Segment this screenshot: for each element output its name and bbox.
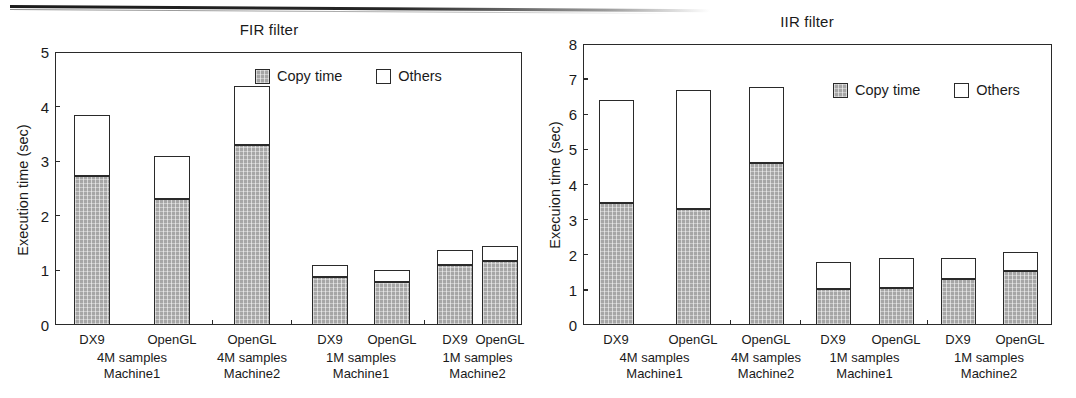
x-group-label-line2-iir-2: Machine1 [829,366,899,382]
x-group-label-iir-0: 4M samplesMachine1 [619,350,689,382]
bar-segment-others-iir-3 [816,262,851,289]
y-tick-mark-iir-3 [583,219,588,220]
y-tick-mark-fir-2 [55,215,60,216]
bar-fir-4 [374,270,410,325]
bar-iir-1 [676,90,711,325]
bar-segment-copy-time-iir-2 [749,163,784,325]
legend-swatch-others-icon [376,69,391,84]
legend-label-copy-time: Copy time [855,82,920,98]
y-tick-label-iir-2: 2 [557,246,577,263]
x-group-label-line1-iir-1: 4M samples [731,350,801,366]
x-category-label-iir-4: OpenGL [871,332,920,347]
x-group-label-line2-iir-0: Machine1 [619,366,689,382]
bar-segment-others-iir-1 [676,90,711,209]
legend-item-copy-time-iir: Copy time [833,82,920,98]
x-group-label-line1-iir-3: 1M samples [954,350,1024,366]
x-category-label-iir-1: OpenGL [668,332,717,347]
chart-title-fir: FIR filter [0,21,538,38]
bar-segment-copy-time-iir-3 [816,289,851,325]
legend-swatch-copy-time-icon [255,69,270,84]
legend-item-others-fir: Others [376,68,442,84]
y-tick-mark-fir-3 [55,161,60,162]
y-tick-mark-fir-1 [55,270,60,271]
y-axis-label-fir: Execution time (sec) [14,124,30,255]
x-tick-mark-iir-2 [800,320,801,325]
bar-segment-copy-time-fir-2 [234,145,270,325]
y-tick-mark-iir-7 [583,78,588,79]
bar-segment-copy-time-iir-5 [941,279,976,325]
x-tick-mark-fir-2 [291,320,292,325]
x-group-label-line1-fir-3: 1M samples [442,350,512,366]
legend-fir: Copy timeOthers [255,68,442,84]
y-tick-mark-iir-2 [583,254,588,255]
y-tick-label-iir-8: 8 [557,36,577,53]
bar-segment-others-fir-1 [154,156,190,200]
x-group-label-fir-1: 4M samplesMachine2 [217,350,287,382]
y-tick-label-fir-2: 2 [29,207,49,224]
bar-segment-copy-time-iir-0 [599,203,634,325]
y-tick-mark-iir-1 [583,289,588,290]
y-tick-label-iir-4: 4 [557,176,577,193]
y-tick-label-fir-3: 3 [29,153,49,170]
bar-iir-4 [879,258,914,325]
bar-segment-others-fir-4 [374,270,410,282]
y-tick-label-fir-0: 0 [29,317,49,334]
bar-fir-2 [234,86,270,325]
bar-segment-others-iir-4 [879,258,914,288]
bar-iir-2 [749,87,784,325]
bar-segment-others-fir-2 [234,86,270,144]
bar-segment-others-fir-5 [437,250,473,265]
x-group-label-line2-fir-0: Machine1 [97,366,167,382]
x-group-label-line1-iir-2: 1M samples [829,350,899,366]
y-tick-mark-iir-5 [583,149,588,150]
x-category-label-fir-6: OpenGL [475,332,524,347]
bar-segment-others-iir-5 [941,258,976,278]
legend-iir: Copy timeOthers [833,82,1020,98]
x-group-label-iir-1: 4M samplesMachine2 [731,350,801,382]
legend-item-others-iir: Others [954,82,1020,98]
bar-segment-copy-time-fir-6 [482,261,518,325]
x-category-label-fir-1: OpenGL [147,332,196,347]
y-tick-mark-fir-4 [55,106,60,107]
bar-fir-1 [154,156,190,325]
x-tick-mark-iir-1 [730,320,731,325]
x-group-label-fir-3: 1M samplesMachine2 [442,350,512,382]
x-group-label-iir-3: 1M samplesMachine2 [954,350,1024,382]
x-tick-mark-iir-3 [927,320,928,325]
bar-segment-others-fir-0 [74,115,110,177]
x-category-label-fir-2: OpenGL [227,332,276,347]
x-group-label-line2-fir-2: Machine1 [326,366,396,382]
y-tick-label-iir-7: 7 [557,71,577,88]
x-category-label-iir-5: DX9 [945,332,970,347]
bar-segment-others-iir-2 [749,87,784,164]
bar-segment-copy-time-fir-3 [312,277,348,325]
x-group-label-line2-iir-1: Machine2 [731,366,801,382]
y-tick-label-iir-1: 1 [557,281,577,298]
y-tick-label-iir-5: 5 [557,141,577,158]
legend-swatch-others-icon [954,83,969,98]
x-category-label-fir-3: DX9 [317,332,342,347]
x-group-label-line1-fir-0: 4M samples [97,350,167,366]
bar-segment-copy-time-fir-1 [154,199,190,325]
x-group-label-line2-fir-1: Machine2 [217,366,287,382]
y-tick-label-iir-3: 3 [557,211,577,228]
x-category-label-iir-3: DX9 [820,332,845,347]
x-group-label-iir-2: 1M samplesMachine1 [829,350,899,382]
bar-iir-3 [816,262,851,325]
bar-segment-copy-time-fir-5 [437,265,473,325]
y-tick-label-iir-6: 6 [557,106,577,123]
x-category-label-fir-4: OpenGL [367,332,416,347]
bar-fir-3 [312,265,348,325]
legend-label-copy-time: Copy time [277,68,342,84]
x-group-label-line2-iir-3: Machine2 [954,366,1024,382]
legend-label-others: Others [398,68,442,84]
x-group-label-fir-0: 4M samplesMachine1 [97,350,167,382]
bar-fir-0 [74,115,110,325]
x-group-label-line2-fir-3: Machine2 [442,366,512,382]
bar-segment-others-iir-6 [1003,252,1038,271]
x-group-label-fir-2: 1M samplesMachine1 [326,350,396,382]
x-category-label-fir-0: DX9 [79,332,104,347]
bar-iir-0 [599,100,634,325]
x-tick-mark-fir-3 [424,320,425,325]
y-tick-mark-iir-4 [583,184,588,185]
